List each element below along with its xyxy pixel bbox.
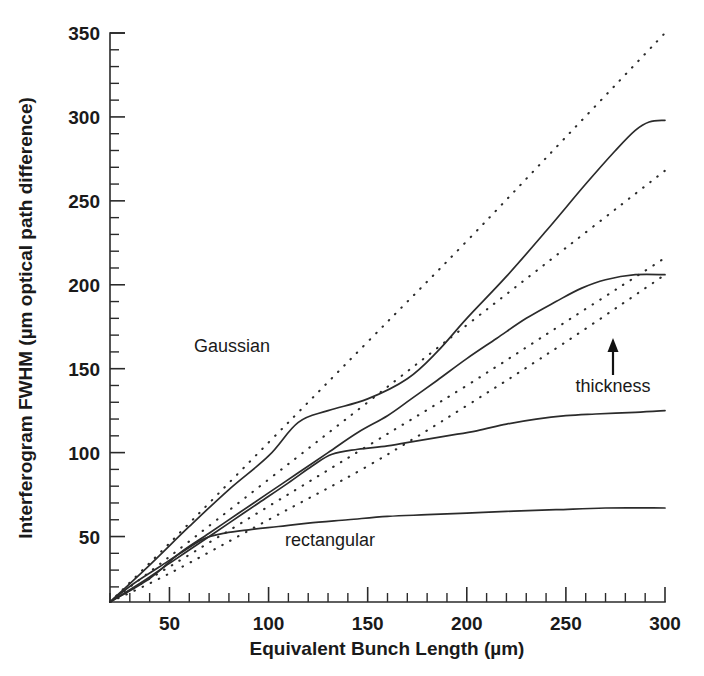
x-tick-labels: 50100150200250300 xyxy=(159,613,681,634)
x-tick-label: 100 xyxy=(253,613,285,634)
chart-canvas: 50100150200250300 50100150200250300350 E… xyxy=(0,0,704,676)
series-curve-5 xyxy=(110,274,665,602)
y-tick-label: 100 xyxy=(68,443,100,464)
thickness-annotation-label: thickness xyxy=(575,376,650,396)
series-curve-2 xyxy=(110,258,665,602)
series-curve-4 xyxy=(110,120,665,602)
x-tick-label: 300 xyxy=(649,613,681,634)
y-tick-label: 50 xyxy=(79,527,100,548)
x-tick-label: 250 xyxy=(550,613,582,634)
thickness-arrow-icon xyxy=(608,338,619,375)
y-tick-label: 200 xyxy=(68,275,100,296)
y-axis-title: Interferogram FWHM (µm optical path diff… xyxy=(15,97,36,539)
data-curves xyxy=(110,33,665,602)
y-tick-label: 300 xyxy=(68,107,100,128)
series-curve-3 xyxy=(110,275,665,602)
x-axis-title: Equivalent Bunch Length (µm) xyxy=(250,638,525,659)
x-tick-label: 50 xyxy=(159,613,180,634)
x-tick-label: 150 xyxy=(352,613,384,634)
rectangular-series-label: rectangular xyxy=(285,530,375,550)
series-curve-6 xyxy=(110,411,665,602)
interferogram-fwhm-figure: 50100150200250300 50100150200250300350 E… xyxy=(0,0,704,676)
y-tick-label: 150 xyxy=(68,359,100,380)
x-tick-label: 200 xyxy=(451,613,483,634)
y-tick-labels: 50100150200250300350 xyxy=(68,23,100,548)
y-tick-label: 350 xyxy=(68,23,100,44)
y-tick-label: 250 xyxy=(68,191,100,212)
gaussian-series-label: Gaussian xyxy=(194,336,270,356)
